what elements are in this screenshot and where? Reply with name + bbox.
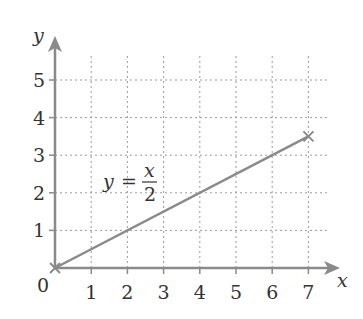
y-tick-label: 2 [33,182,45,204]
x-tick-label: 3 [158,281,170,303]
equation-lhs: y [102,170,114,192]
data-series [50,131,313,273]
origin-label: 0 [37,274,49,296]
y-tick-label: 3 [33,144,45,166]
line-chart: 123456712345 x y 0 y = x 2 [0,0,363,319]
grid-lines [55,53,328,268]
x-tick-label: 1 [85,281,97,303]
x-tick-label: 4 [194,281,206,303]
y-tick-label: 4 [33,107,45,129]
y-tick-label: 5 [33,69,45,91]
equation-annotation: y = x 2 [102,159,157,205]
series-line [55,136,308,268]
x-axis-label: x [337,269,348,291]
x-tick-label: 5 [230,281,242,303]
y-tick-label: 1 [33,219,45,241]
equation-denominator: 2 [144,183,156,205]
x-tick-label: 2 [121,281,133,303]
x-tick-label: 7 [302,281,314,303]
equation-equals: = [121,170,137,192]
equation-numerator: x [144,159,155,181]
y-axis-label: y [32,24,44,46]
x-tick-label: 6 [266,281,278,303]
